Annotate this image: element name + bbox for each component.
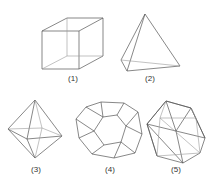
dodecahedron-figure bbox=[76, 102, 142, 158]
tetrahedron-figure bbox=[121, 14, 180, 71]
label-tetrahedron: (2) bbox=[145, 74, 155, 83]
label-cube: (1) bbox=[68, 74, 78, 83]
octahedron-figure bbox=[8, 100, 62, 158]
cube-figure bbox=[42, 18, 103, 69]
label-octahedron: (3) bbox=[31, 165, 41, 174]
platonic-solids-diagram: (1) (2) (3) (4) bbox=[0, 0, 215, 181]
icosahedron-figure bbox=[147, 101, 205, 163]
label-dodecahedron: (4) bbox=[105, 165, 115, 174]
label-icosahedron: (5) bbox=[171, 165, 181, 174]
